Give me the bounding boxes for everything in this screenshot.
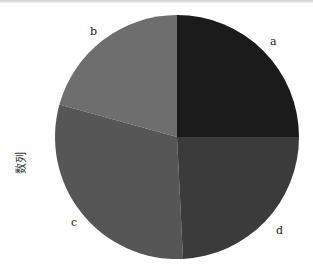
slice-label-c: c bbox=[71, 217, 77, 228]
pie-slice-d bbox=[177, 137, 299, 259]
pie-slice-a bbox=[177, 15, 299, 137]
y-axis-label-wrap: 数列 bbox=[12, 150, 26, 180]
slice-label-d: d bbox=[276, 225, 283, 236]
slice-label-b: b bbox=[90, 26, 97, 37]
pie-chart bbox=[0, 0, 313, 273]
y-axis-label: 数列 bbox=[12, 152, 28, 174]
slice-label-a: a bbox=[270, 36, 277, 47]
